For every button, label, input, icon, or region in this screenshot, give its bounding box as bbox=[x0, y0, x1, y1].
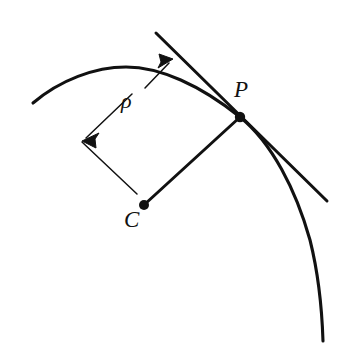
center-c-label: C bbox=[124, 208, 139, 231]
rho-arrowhead-lower-icon bbox=[82, 133, 99, 148]
point-p-marker bbox=[235, 112, 245, 122]
diagram-canvas bbox=[0, 0, 350, 343]
rho-extension-line bbox=[82, 142, 137, 194]
point-p-label: P bbox=[234, 78, 248, 101]
radius-line-cp bbox=[145, 118, 239, 204]
curvature-diagram: P C ρ bbox=[0, 0, 350, 343]
point-c-marker bbox=[139, 200, 149, 210]
plane-curve bbox=[33, 67, 323, 341]
rho-label: ρ bbox=[121, 90, 132, 112]
